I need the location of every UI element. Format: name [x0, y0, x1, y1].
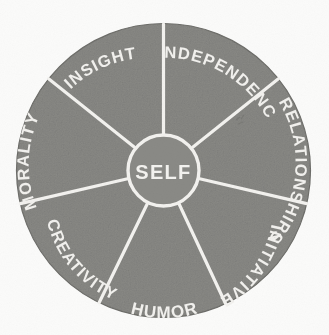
self-wheel-graphic: SELF INDEPENDENCE RELATIONSHIPS INITIATI…: [0, 0, 329, 335]
hub-label: SELF: [135, 161, 191, 183]
hub-circle: SELF: [128, 135, 199, 206]
wheel-diagram-canvas: SELF INDEPENDENCE RELATIONSHIPS INITIATI…: [0, 0, 329, 335]
